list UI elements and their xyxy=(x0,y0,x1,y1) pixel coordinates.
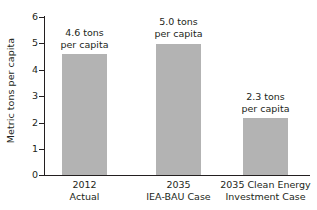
x-category-line1: 2035 Clean Energy xyxy=(220,179,310,190)
bar-value-2012-actual: 4.6 tons per capita xyxy=(42,27,127,50)
x-category-line1: 2035 xyxy=(166,179,190,190)
x-category-line2: Investment Case xyxy=(225,191,305,202)
bar-value-line2: per capita xyxy=(241,103,289,114)
y-tick-mark-0 xyxy=(39,175,44,176)
bar-value-2035-clean-energy: 2.3 tons per capita xyxy=(223,91,308,114)
x-category-label-2012-actual: 2012 Actual xyxy=(42,179,127,202)
bar-2035-iea-bau[interactable] xyxy=(156,44,201,175)
x-category-line2: IEA-BAU Case xyxy=(146,191,210,202)
bar-value-line1: 4.6 tons xyxy=(65,27,104,38)
bar-value-2035-iea-bau: 5.0 tons per capita xyxy=(136,16,221,39)
x-category-line2: Actual xyxy=(70,191,100,202)
bar-chart: Metric tons per capita 6 5 4 3 2 1 0 4.6… xyxy=(0,0,317,210)
x-axis-line xyxy=(44,175,310,176)
x-category-line1: 2012 xyxy=(72,179,96,190)
bar-value-line2: per capita xyxy=(60,39,108,50)
x-category-label-2035-clean-energy: 2035 Clean Energy Investment Case xyxy=(212,179,317,202)
bar-2035-clean-energy[interactable] xyxy=(243,118,288,175)
bar-2012-actual[interactable] xyxy=(62,54,107,175)
bar-value-line2: per capita xyxy=(154,28,202,39)
bar-value-line1: 2.3 tons xyxy=(246,91,285,102)
bar-value-line1: 5.0 tons xyxy=(159,16,198,27)
